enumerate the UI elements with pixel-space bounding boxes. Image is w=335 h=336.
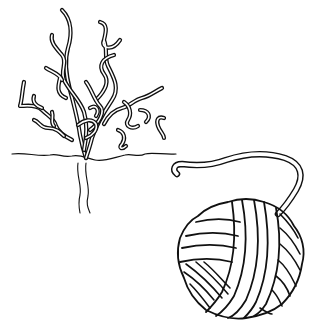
roots: [78, 163, 90, 213]
ground-line: [12, 153, 176, 160]
yarn-wraps: [180, 200, 300, 318]
yarn-ball-icon: [174, 154, 303, 318]
branches: [20, 10, 164, 158]
illustration-canvas: [0, 0, 335, 336]
tree-icon: [12, 10, 176, 213]
